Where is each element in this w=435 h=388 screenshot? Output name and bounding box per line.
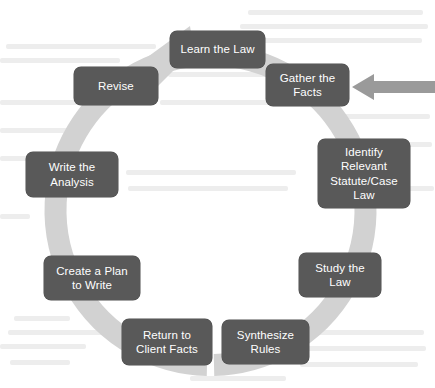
step-synthesize-rules[interactable]: Synthesize Rules: [222, 320, 309, 364]
step-label: Return to Client Facts: [136, 328, 198, 356]
step-label: Gather the Facts: [280, 71, 335, 99]
step-label: Revise: [98, 79, 134, 93]
entry-arrow-icon: [352, 72, 435, 102]
step-learn-the-law[interactable]: Learn the Law: [170, 31, 265, 68]
step-gather-the-facts[interactable]: Gather the Facts: [266, 64, 349, 106]
step-label: Learn the Law: [180, 42, 254, 56]
diagram-canvas: Learn the Law Gather the Facts Identify …: [0, 0, 435, 388]
step-label: Study the Law: [315, 261, 365, 289]
step-label: Create a Plan to Write: [56, 264, 128, 292]
step-label: Identify Relevant Statute/Case Law: [330, 145, 398, 201]
step-return-to-client-facts[interactable]: Return to Client Facts: [122, 319, 212, 365]
step-create-a-plan[interactable]: Create a Plan to Write: [44, 256, 140, 300]
step-write-the-analysis[interactable]: Write the Analysis: [26, 152, 118, 197]
step-identify-statute[interactable]: Identify Relevant Statute/Case Law: [318, 139, 410, 208]
step-revise[interactable]: Revise: [74, 67, 158, 105]
step-study-the-law[interactable]: Study the Law: [299, 253, 381, 297]
step-label: Synthesize Rules: [237, 328, 294, 356]
step-label: Write the Analysis: [49, 160, 96, 188]
